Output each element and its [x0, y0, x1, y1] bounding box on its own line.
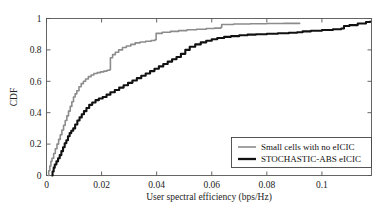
x-tick-label: 0 — [44, 180, 49, 190]
x-tick-label: 0.02 — [93, 180, 110, 190]
y-tick-label: 0 — [37, 171, 42, 181]
x-tick-label: 0.04 — [148, 180, 165, 190]
legend-label-small-cells: Small cells with no eICIC — [261, 142, 355, 152]
y-axis-title: CDF — [9, 88, 19, 106]
y-tick-label: 1 — [37, 14, 42, 24]
y-tick-label: 0.8 — [30, 45, 42, 55]
x-axis-tick-labels: 00.020.040.060.080.1 — [44, 180, 328, 190]
legend-label-stochastic-abs: STOCHASTIC-ABS eICIC — [261, 154, 361, 164]
y-tick-label: 0.4 — [30, 108, 42, 118]
chart-legend[interactable]: Small cells with no eICIC STOCHASTIC-ABS… — [232, 138, 372, 168]
x-tick-label: 0.06 — [203, 180, 220, 190]
x-tick-label: 0.1 — [316, 180, 328, 190]
y-tick-label: 0.6 — [30, 77, 42, 87]
x-tick-label: 0.08 — [259, 180, 276, 190]
x-axis-title: User spectral efficiency (bps/Hz) — [146, 192, 272, 203]
cdf-plot: 00.020.040.060.080.1 00.20.40.60.81 User… — [0, 0, 386, 217]
y-tick-label: 0.2 — [30, 139, 42, 149]
y-axis-tick-labels: 00.20.40.60.81 — [30, 14, 42, 181]
chart-figure: 00.020.040.060.080.1 00.20.40.60.81 User… — [0, 0, 386, 217]
